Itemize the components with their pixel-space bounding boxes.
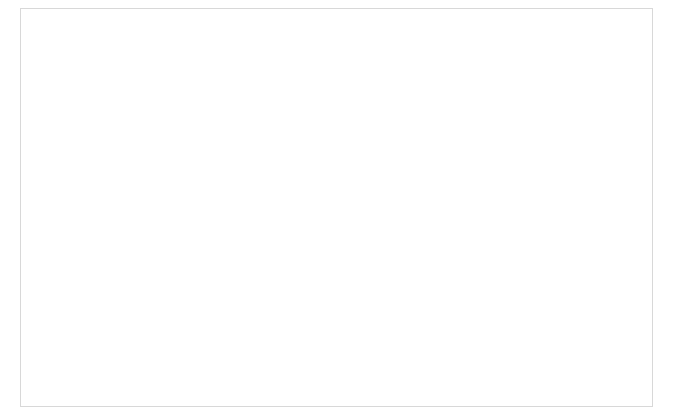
figure-border (20, 8, 653, 407)
figure-root (0, 0, 673, 415)
